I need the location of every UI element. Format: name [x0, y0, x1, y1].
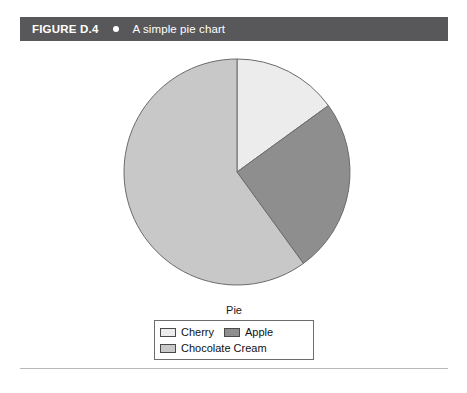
pie-chart-area: Pie CherryAppleChocolate Cream	[20, 45, 448, 360]
legend-swatch-icon	[160, 328, 176, 337]
figure-container: FIGURE D.4 A simple pie chart Pie Cherry…	[0, 0, 467, 393]
legend-swatch-icon	[160, 344, 176, 353]
legend-item-label: Apple	[245, 326, 273, 338]
figure-caption-bar: FIGURE D.4 A simple pie chart	[20, 17, 448, 41]
figure-caption-text: A simple pie chart	[133, 23, 226, 35]
pie-slice-group	[124, 59, 350, 285]
legend-item: Apple	[224, 326, 273, 338]
legend-item-label: Chocolate Cream	[181, 342, 267, 354]
legend-item: Cherry	[160, 326, 214, 338]
bullet-dot-icon	[113, 26, 119, 32]
legend-box: CherryAppleChocolate Cream	[154, 320, 314, 360]
legend-item: Chocolate Cream	[160, 342, 267, 354]
legend-title: Pie	[20, 303, 448, 317]
figure-bottom-rule	[20, 368, 448, 369]
legend-row: CherryApple	[160, 324, 308, 340]
legend-swatch-icon	[224, 328, 240, 337]
pie-chart-svg	[20, 45, 448, 295]
chart-legend: Pie CherryAppleChocolate Cream	[20, 303, 448, 360]
figure-number-label: FIGURE D.4	[32, 23, 99, 35]
legend-item-label: Cherry	[181, 326, 214, 338]
legend-row: Chocolate Cream	[160, 340, 308, 356]
